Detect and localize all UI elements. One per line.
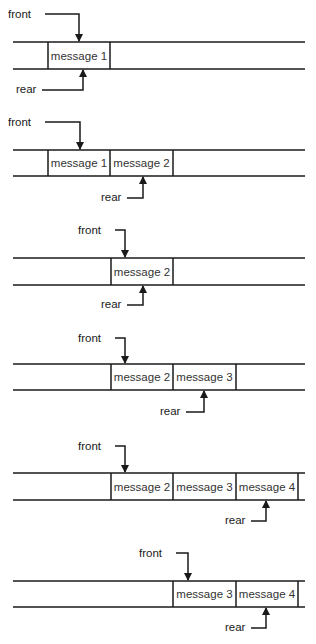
message-cell: message 2: [114, 481, 170, 493]
queue-panel-5: message 2message 3message 4frontrear: [13, 440, 305, 526]
rear-pointer-arrow-icon: [251, 608, 266, 628]
front-pointer-arrow-icon: [45, 122, 80, 149]
front-label: front: [78, 440, 102, 452]
message-cell: message 2: [114, 371, 170, 383]
queue-panel-4: message 2message 3frontrear: [13, 332, 305, 417]
rear-pointer-arrow-icon: [251, 501, 266, 521]
message-cell: message 3: [176, 371, 232, 383]
rear-pointer-arrow-icon: [127, 286, 143, 305]
rear-label: rear: [160, 405, 181, 417]
front-label: front: [78, 224, 102, 236]
message-cell: message 3: [176, 481, 232, 493]
front-pointer-arrow-icon: [115, 230, 125, 257]
message-cell: message 4: [239, 481, 296, 493]
rear-label: rear: [225, 621, 246, 633]
queue-diagram: message 1frontrearmessage 1message 2fron…: [0, 0, 316, 644]
queue-panel-2: message 1message 2frontrear: [8, 116, 305, 203]
rear-label: rear: [16, 83, 37, 95]
rear-label: rear: [101, 298, 122, 310]
rear-label: rear: [225, 514, 246, 526]
message-cell: message 2: [114, 266, 170, 278]
queue-panel-6: message 3message 4frontrear: [13, 547, 305, 633]
front-pointer-arrow-icon: [176, 553, 188, 580]
message-cell: message 3: [176, 588, 232, 600]
queue-panel-3: message 2frontrear: [13, 224, 305, 310]
front-pointer-arrow-icon: [115, 446, 125, 472]
rear-pointer-arrow-icon: [42, 70, 83, 90]
front-label: front: [8, 116, 32, 128]
queue-panel-1: message 1frontrear: [8, 8, 305, 95]
rear-pointer-arrow-icon: [186, 391, 204, 412]
rear-label: rear: [101, 191, 122, 203]
rear-pointer-arrow-icon: [127, 177, 143, 198]
front-label: front: [139, 547, 163, 559]
message-cell: message 1: [51, 50, 107, 62]
front-pointer-arrow-icon: [115, 338, 125, 363]
front-pointer-arrow-icon: [45, 14, 79, 41]
message-cell: message 2: [113, 157, 169, 169]
front-label: front: [78, 332, 102, 344]
front-label: front: [8, 8, 32, 20]
message-cell: message 4: [239, 588, 296, 600]
message-cell: message 1: [51, 157, 107, 169]
